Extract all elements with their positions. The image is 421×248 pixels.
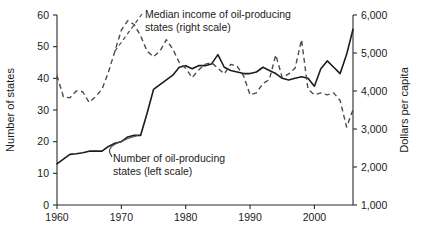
x-axis-tick-label: 1980 bbox=[174, 211, 198, 223]
x-axis-tick-label: 2000 bbox=[303, 211, 327, 223]
number-of-states-annotation-line1: Number of oil-producing bbox=[113, 152, 225, 164]
series-line-number-of-states bbox=[57, 29, 353, 164]
line-chart-canvas: 0102030405060 1,0002,0003,0004,0005,0006… bbox=[0, 0, 421, 248]
right-axis-tick-label: 2,000 bbox=[361, 161, 387, 173]
x-axis-tick-label: 1990 bbox=[238, 211, 262, 223]
median-income-annotation-line1: Median income of oil-producing bbox=[145, 8, 291, 20]
median-income-annotation-line2: states (right scale) bbox=[145, 21, 231, 33]
left-axis-tick-label: 60 bbox=[37, 9, 49, 21]
left-axis-title: Number of states bbox=[4, 68, 16, 152]
right-axis-tick-label: 3,000 bbox=[361, 123, 387, 135]
left-axis-tick-label: 50 bbox=[37, 40, 49, 52]
chart-figure: 0102030405060 1,0002,0003,0004,0005,0006… bbox=[0, 0, 421, 248]
right-axis-tick-label: 6,000 bbox=[361, 9, 387, 21]
right-axis-title: Dollars per capita bbox=[398, 66, 410, 152]
right-axis-tick-label: 4,000 bbox=[361, 85, 387, 97]
right-axis-tick-label: 1,000 bbox=[361, 199, 387, 211]
right-axis-tick-label: 5,000 bbox=[361, 47, 387, 59]
x-axis-tick-label: 1960 bbox=[45, 211, 69, 223]
number-of-states-annotation-line2: states (left scale) bbox=[113, 165, 192, 177]
left-axis-tick-label: 0 bbox=[43, 199, 49, 211]
median-income-leader-line bbox=[115, 14, 142, 51]
left-axis-tick-label: 20 bbox=[37, 135, 49, 147]
left-axis-ticks: 0102030405060 bbox=[37, 9, 57, 211]
right-axis-ticks: 1,0002,0003,0004,0005,0006,000 bbox=[353, 9, 387, 211]
left-axis-tick-label: 40 bbox=[37, 72, 49, 84]
left-axis-tick-label: 30 bbox=[37, 104, 49, 116]
x-axis-tick-label: 1970 bbox=[110, 211, 134, 223]
x-axis-ticks: 19601970198019902000 bbox=[45, 205, 326, 223]
left-axis-tick-label: 10 bbox=[37, 167, 49, 179]
series-line-median-income bbox=[57, 21, 353, 127]
